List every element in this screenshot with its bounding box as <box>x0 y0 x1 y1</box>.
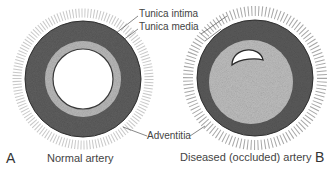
caption-normal-artery: Normal artery <box>47 153 114 164</box>
label-tunica-media: Tunica media <box>139 22 199 32</box>
label-adventitia: Adventitia <box>147 131 191 141</box>
panel-letter-a: A <box>6 151 15 165</box>
diseased-artery <box>188 11 322 145</box>
label-tunica-intima: Tunica intima <box>139 9 198 19</box>
panel-letter-b: B <box>315 150 324 164</box>
lumen <box>53 49 113 109</box>
caption-diseased-artery: Diseased (occluded) artery <box>180 152 311 163</box>
normal-artery <box>17 13 149 145</box>
